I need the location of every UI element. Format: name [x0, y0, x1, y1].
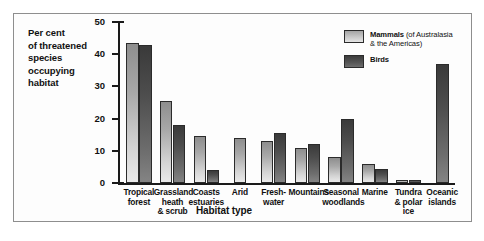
bar-group	[261, 133, 287, 183]
y-axis-caption-line-1: Per cent	[28, 27, 106, 40]
x-axis-category-label: Tundra& polarice	[390, 188, 428, 217]
y-axis-tick: 20	[112, 118, 120, 120]
y-axis-tick-label: 0	[100, 178, 105, 188]
x-axis-category-label: Arid	[221, 188, 259, 198]
y-axis-tick-label: 40	[94, 49, 105, 59]
bar-group	[396, 180, 422, 183]
chart-figure: Per cent of threatened species occupying…	[0, 0, 484, 241]
x-axis-category-label: Mountains	[289, 188, 327, 198]
bar-birds	[341, 119, 354, 183]
bar-mammals	[261, 141, 274, 183]
bar-birds	[436, 64, 449, 183]
bar-group	[160, 101, 186, 183]
bar-birds	[375, 169, 388, 183]
x-axis-category-label: Seasonalwoodlands	[322, 188, 360, 207]
y-axis-tick: 30	[112, 85, 120, 87]
x-axis-category-label-line: Mountains	[289, 188, 327, 198]
bar-group	[328, 119, 354, 183]
bar-mammals	[362, 164, 375, 183]
x-axis-category-labels: TropicalforestGrasslandheath& scrubCoast…	[118, 188, 455, 222]
x-axis-line	[118, 183, 455, 185]
x-axis-category-label-line: woodlands	[322, 198, 360, 208]
bar-group	[126, 43, 152, 183]
bar-group	[429, 64, 455, 183]
y-axis-tick-label: 10	[94, 146, 105, 156]
bar-mammals	[160, 101, 173, 183]
y-axis-cap	[118, 21, 124, 23]
x-axis-category-label-line: Marine	[356, 188, 394, 198]
x-axis-category-label: Tropicalforest	[120, 188, 158, 207]
x-axis-category-label-line: islands	[423, 198, 461, 208]
bar-birds	[409, 180, 422, 183]
x-axis-title: Habitat type	[196, 205, 252, 216]
bar-group	[227, 138, 253, 183]
bar-mammals	[234, 138, 247, 183]
x-axis-category-label-line: forest	[120, 198, 158, 208]
y-axis-tick: 10	[112, 150, 120, 152]
bar-birds	[139, 45, 152, 183]
x-axis-category-label: Marine	[356, 188, 394, 198]
x-axis-category-label-line: ice	[390, 207, 428, 217]
x-axis-category-label: Oceanicislands	[423, 188, 461, 207]
x-axis-category-label: Grasslandheath& scrub	[154, 188, 192, 217]
y-axis-tick-label: 20	[94, 114, 105, 124]
plot-area: 01020304050	[118, 22, 455, 185]
bar-birds	[274, 133, 287, 183]
bar-birds	[207, 170, 220, 183]
x-axis-category-label: Fresh-water	[255, 188, 293, 207]
bar-mammals	[328, 157, 341, 183]
y-axis-tick-label: 50	[94, 17, 105, 27]
bar-mammals	[126, 43, 139, 183]
bar-mammals	[194, 136, 207, 183]
x-axis-category-label-line: water	[255, 198, 293, 208]
y-axis-caption-line-4: occupying	[28, 65, 106, 78]
y-axis-tick-label: 30	[94, 82, 105, 92]
bar-birds	[173, 125, 186, 183]
x-axis-category-label-line: & scrub	[154, 207, 192, 217]
bar-birds	[308, 144, 321, 183]
bar-mammals	[396, 180, 409, 183]
bar-group	[295, 144, 321, 183]
y-axis-line	[118, 22, 120, 185]
bar-group	[194, 136, 220, 183]
y-axis-tick: 40	[112, 53, 120, 55]
x-axis-category-label-line: Arid	[221, 188, 259, 198]
bar-group	[362, 164, 388, 183]
bar-mammals	[295, 148, 308, 183]
